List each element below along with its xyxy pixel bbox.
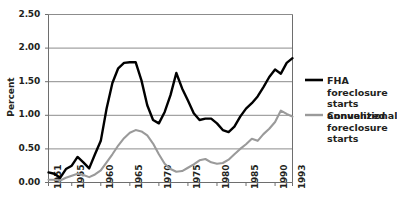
fha-foreclosure-line	[49, 58, 293, 178]
legend-label-conventional: Conventional foreclosure starts	[327, 110, 397, 145]
foreclosure-starts-line-chart: Percent 2.50 2.00 1.50 1.00 0.50 0.00 19…	[0, 0, 397, 223]
gridlines	[49, 15, 293, 149]
conventional-foreclosure-line	[49, 111, 293, 181]
